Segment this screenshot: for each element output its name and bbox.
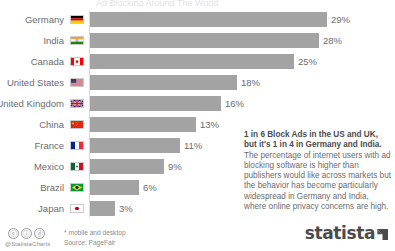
chart-footer: ⓒ ⓘ ⓓ @StatistaCharts * mobile and deskt… xyxy=(5,228,265,250)
flag-japan-icon xyxy=(70,204,84,213)
bar xyxy=(90,96,221,111)
flag-india-icon xyxy=(70,36,84,45)
bar xyxy=(90,54,294,69)
flag-brazil-icon xyxy=(70,183,84,192)
bar-value-label: 16% xyxy=(225,93,244,114)
bar-category-label: Canada xyxy=(31,51,64,72)
bar xyxy=(90,12,327,27)
flag-germany-icon xyxy=(70,15,84,24)
table-row: United States 18% xyxy=(0,72,395,93)
bar-value-label: 29% xyxy=(331,9,350,30)
flag-canada-icon xyxy=(70,57,84,66)
bar-value-label: 9% xyxy=(168,156,182,177)
bar-value-label: 18% xyxy=(241,72,260,93)
flag-united-states-icon xyxy=(70,78,84,87)
bar-value-label: 25% xyxy=(298,51,317,72)
footnote-text: * mobile and desktop xyxy=(64,228,126,238)
cc-icon: ⓒ xyxy=(8,228,19,239)
bar xyxy=(90,180,139,195)
bar-value-label: 3% xyxy=(119,198,133,219)
flag-united-kingdom-icon xyxy=(70,99,84,108)
bar-value-label: 28% xyxy=(323,30,342,51)
bar-category-label: India xyxy=(43,30,64,51)
statista-logo: statista xyxy=(305,225,388,242)
flag-china-icon xyxy=(70,120,84,129)
bar-category-label: Japan xyxy=(38,198,64,219)
cc-by-icon: ⓘ xyxy=(21,228,32,239)
flag-france-icon xyxy=(70,141,84,150)
table-row: United Kingdom 16% xyxy=(0,93,395,114)
bar xyxy=(90,33,319,48)
creative-commons-icons: ⓒ ⓘ ⓓ xyxy=(8,228,45,239)
bar-category-label: Brazil xyxy=(40,177,64,198)
annotation-headline: 1 in 6 Block Ads in the US and UK, but i… xyxy=(244,130,391,151)
bar-category-label: United Kingdom xyxy=(0,93,64,114)
bar-category-label: France xyxy=(34,135,64,156)
cc-nd-icon: ⓓ xyxy=(34,228,45,239)
statista-arrow-icon xyxy=(377,229,388,240)
table-row: Germany 29% xyxy=(0,9,395,30)
bar-category-label: Mexico xyxy=(34,156,64,177)
statista-handle: @StatistaCharts xyxy=(5,241,50,247)
table-row: India 28% xyxy=(0,30,395,51)
bar-category-label: China xyxy=(39,114,64,135)
bar xyxy=(90,201,115,216)
bar xyxy=(90,117,196,132)
statista-bar-chart: Ad Blocking Around The World Germany 29%… xyxy=(0,0,395,251)
chart-title-remnant: Ad Blocking Around The World xyxy=(96,0,286,7)
statista-wordmark: statista xyxy=(305,225,375,242)
annotation-callout: 1 in 6 Block Ads in the US and UK, but i… xyxy=(244,130,391,212)
annotation-body: The percentage of internet users with ad… xyxy=(244,151,391,213)
bar-value-label: 6% xyxy=(143,177,157,198)
bar-value-label: 11% xyxy=(184,135,202,156)
bar xyxy=(90,159,164,174)
footer-notes: * mobile and desktop Source: PageFair xyxy=(64,228,126,247)
flag-mexico-icon xyxy=(70,162,84,171)
bar xyxy=(90,75,237,90)
bar-value-label: 13% xyxy=(200,114,219,135)
bar-category-label: Germany xyxy=(25,9,64,30)
table-row: Canada 25% xyxy=(0,51,395,72)
bar xyxy=(90,138,180,153)
bar-category-label: United States xyxy=(7,72,64,93)
source-text: Source: PageFair xyxy=(64,238,126,248)
